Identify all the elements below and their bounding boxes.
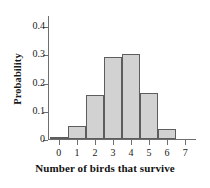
x-tick-mark — [113, 140, 114, 145]
x-tick-mark — [185, 140, 186, 145]
bar — [122, 54, 140, 139]
y-axis-title: Probability — [12, 29, 26, 129]
x-axis-line — [48, 139, 196, 140]
x-tick-mark — [131, 140, 132, 145]
y-tick-label: 0 — [40, 133, 45, 144]
x-tick-label: 1 — [67, 147, 87, 158]
x-tick-label: 2 — [85, 147, 105, 158]
y-tick-label: 0.1 — [33, 105, 46, 116]
x-tick-mark — [167, 140, 168, 145]
bar — [68, 126, 86, 139]
x-tick-mark — [77, 140, 78, 145]
bar — [140, 93, 158, 139]
bar — [158, 129, 176, 139]
x-axis-title: Number of birds that survive — [0, 162, 210, 174]
probability-histogram-figure: Probability 00.10.20.30.4 01234567 Numbe… — [0, 0, 210, 188]
bar — [86, 95, 104, 139]
y-tick-label: 0.3 — [33, 48, 46, 59]
x-tick-mark — [149, 140, 150, 145]
x-tick-label: 6 — [157, 147, 177, 158]
y-tick-label: 0.4 — [33, 20, 46, 31]
x-tick-label: 0 — [49, 147, 69, 158]
bar — [50, 137, 68, 139]
y-tick-label: 0.2 — [33, 77, 46, 88]
x-tick-label: 3 — [103, 147, 123, 158]
x-tick-label: 5 — [139, 147, 159, 158]
x-tick-label: 7 — [175, 147, 195, 158]
x-tick-label: 4 — [121, 147, 141, 158]
plot-area: 00.10.20.30.4 01234567 — [48, 16, 196, 140]
y-axis-line — [48, 16, 49, 140]
bar — [104, 57, 122, 139]
x-tick-mark — [95, 140, 96, 145]
x-tick-mark — [59, 140, 60, 145]
